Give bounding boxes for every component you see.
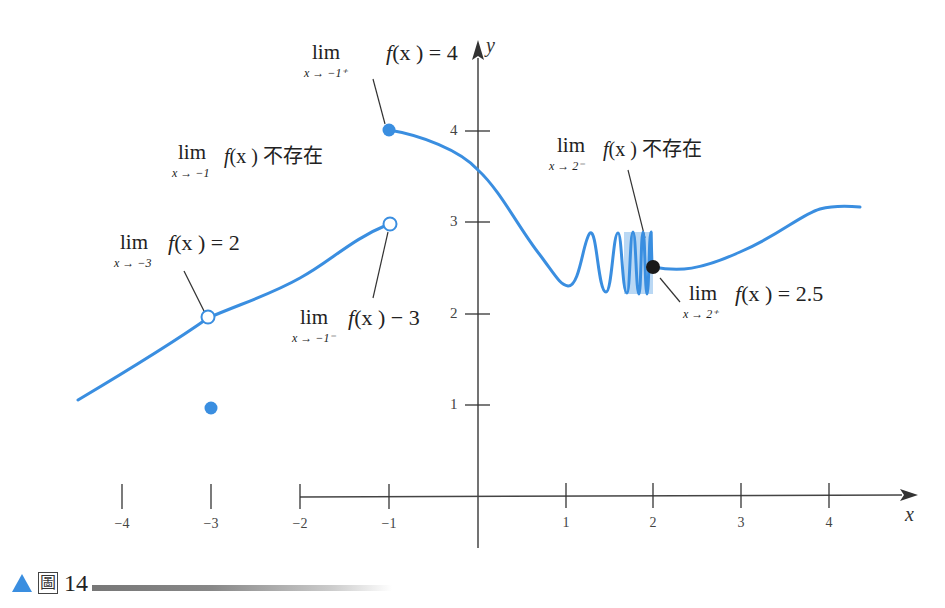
filled-point-minus1-4 xyxy=(383,124,396,137)
caption-label: 圖 xyxy=(38,572,58,594)
caption-number: 14 xyxy=(64,570,88,597)
lim-word: lim xyxy=(300,305,328,330)
curve-right xyxy=(653,206,860,269)
lim-expression: f(x ) − 3 xyxy=(348,305,420,331)
lim-word: lim xyxy=(120,230,148,255)
triangle-icon xyxy=(12,574,32,592)
x-axis-label: x xyxy=(905,503,914,526)
x-tick-label: −4 xyxy=(115,516,130,532)
x-tick-label: 3 xyxy=(738,515,745,531)
x-tick-label: −3 xyxy=(204,516,219,532)
lim-expression: f(x ) = 2 xyxy=(168,230,240,256)
y-axis-arrow-icon xyxy=(472,40,484,60)
x-axis-arrow-icon xyxy=(900,489,918,501)
figure-caption: 圖 14 xyxy=(12,570,392,596)
y-axis-label: y xyxy=(486,34,495,57)
lim-word: lim xyxy=(689,281,717,306)
lim-word: lim xyxy=(312,40,340,65)
filled-point-minus3-1 xyxy=(205,402,218,415)
open-point-minus3-2 xyxy=(202,311,215,324)
lim-subscript: x → −1⁺ xyxy=(304,66,347,81)
expression-rest: (x ) = 2 xyxy=(174,230,240,255)
y-tick-label: 2 xyxy=(450,305,458,322)
y-tick-label: 1 xyxy=(450,396,458,413)
lim-expression: f(x ) = 2.5 xyxy=(735,281,823,307)
x-axis xyxy=(30,483,918,509)
lim-subscript: x → −3 xyxy=(114,256,151,271)
lim-subscript: x → 2⁻ xyxy=(549,159,584,174)
lim-expression: f(x ) 不存在 xyxy=(224,140,323,169)
x-tick-label: 2 xyxy=(650,515,657,531)
y-tick-label: 4 xyxy=(450,122,458,139)
y-axis xyxy=(465,40,490,548)
x-tick-label: −1 xyxy=(382,516,397,532)
x-tick-label: 1 xyxy=(563,515,570,531)
filled-point-2-2.5 xyxy=(646,260,660,274)
lim-subscript: x → 2⁺ xyxy=(683,307,718,322)
y-tick-label: 3 xyxy=(450,213,458,230)
caption-divider xyxy=(92,585,392,591)
lim-subscript: x → −1⁻ xyxy=(292,331,335,346)
lim-word: lim xyxy=(178,140,206,165)
expression-rest: (x ) 不存在 xyxy=(609,138,702,160)
open-point-minus1-3 xyxy=(384,218,397,231)
expression-rest: (x ) = 4 xyxy=(392,40,458,65)
lim-word: lim xyxy=(557,133,585,158)
lim-expression: f(x ) = 4 xyxy=(386,40,458,66)
leader-lines xyxy=(184,79,680,313)
expression-rest: (x ) 不存在 xyxy=(230,145,323,167)
x-tick-label: −2 xyxy=(293,516,308,532)
lim-subscript: x → −1 xyxy=(172,166,209,181)
x-tick-label: 4 xyxy=(826,515,833,531)
expression-rest: (x ) − 3 xyxy=(354,305,420,330)
lim-expression: f(x ) 不存在 xyxy=(603,133,702,162)
expression-rest: (x ) = 2.5 xyxy=(741,281,823,306)
